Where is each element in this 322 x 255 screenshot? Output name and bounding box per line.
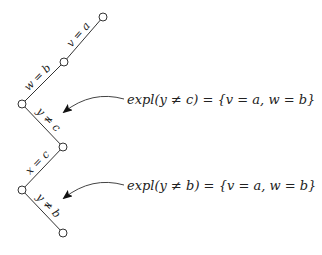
node [59, 143, 67, 151]
annotation-expl-y-neq-b: expl(y ≠ b) = {v = a, w = b} [127, 178, 316, 193]
edge-label-y-neq-c: y ≠ c [33, 104, 63, 134]
annotation-expl-y-neq-c: expl(y ≠ c) = {v = a, w = b} [127, 92, 315, 107]
node [18, 100, 26, 108]
arrow-icon [64, 182, 124, 198]
node [59, 229, 67, 237]
node [18, 186, 26, 194]
edge-label-y-neq-b: y ≠ b [33, 190, 64, 221]
explanation-path-diagram: v = a w = b y ≠ c x = c y ≠ b expl(y ≠ c… [0, 0, 322, 255]
node [99, 13, 107, 21]
node [60, 58, 68, 66]
arrow-icon [64, 96, 124, 112]
